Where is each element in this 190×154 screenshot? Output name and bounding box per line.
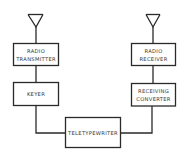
radio-transmitter-label-2: TRANSMITTER <box>15 56 56 62</box>
teletype-radio-block-diagram: RADIO TRANSMITTER KEYER RADIO RECEIVER R… <box>0 0 190 154</box>
receiving-converter-block: RECEIVING CONVERTER <box>132 84 176 107</box>
radio-receiver-block: RADIO RECEIVER <box>132 44 176 66</box>
radio-transmitter-block: RADIO TRANSMITTER <box>14 44 59 66</box>
teletypewriter-block: TELETYPEWRITER <box>66 118 121 148</box>
receiving-converter-label-1: RECEIVING <box>138 88 169 94</box>
keyer-label: KEYER <box>27 91 45 97</box>
wire-converter-teletypewriter <box>121 106 152 133</box>
radio-transmitter-label-1: RADIO <box>27 48 45 54</box>
receive-antenna-icon <box>146 15 160 44</box>
transmit-antenna-icon <box>28 15 43 44</box>
radio-receiver-label-1: RADIO <box>144 48 162 54</box>
keyer-block: KEYER <box>14 83 59 106</box>
receiving-converter-label-2: CONVERTER <box>136 96 170 102</box>
radio-receiver-label-2: RECEIVER <box>139 56 167 62</box>
teletypewriter-label: TELETYPEWRITER <box>67 130 118 136</box>
wire-keyer-teletypewriter <box>36 106 65 133</box>
